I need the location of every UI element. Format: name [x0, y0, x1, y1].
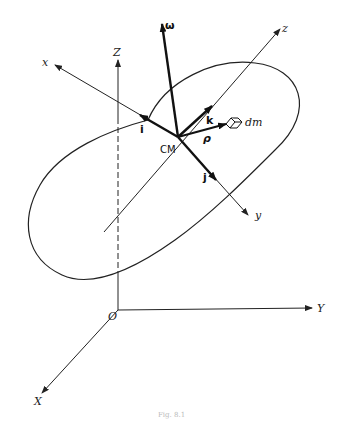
x-axis-label: x [42, 56, 49, 69]
rigid-body-diagram: Z Y X O x z y i j k ω ρ dm CM Fig. 8.1 [0, 0, 343, 421]
rigid-body-outline [28, 62, 299, 279]
z-axis-label: z [281, 22, 288, 35]
z-axis [104, 29, 280, 232]
Y-axis [118, 308, 312, 310]
unit-vectors: i j k [140, 106, 216, 184]
i-label: i [140, 123, 144, 136]
figure-caption: Fig. 8.1 [158, 411, 185, 419]
omega-vector [162, 24, 178, 137]
inertial-frame: Z Y X O [33, 46, 326, 408]
Y-axis-label: Y [317, 302, 326, 315]
dm-label: dm [245, 116, 262, 129]
origin-label: O [108, 310, 117, 323]
y-axis-label: y [254, 209, 262, 222]
k-label: k [206, 114, 214, 127]
omega-label: ω [165, 19, 175, 32]
i-vector [140, 115, 178, 137]
rho-label: ρ [203, 132, 211, 145]
mass-element-cube-icon [226, 118, 242, 128]
X-axis-label: X [33, 395, 43, 408]
j-label: j [202, 171, 207, 184]
X-axis [42, 310, 118, 393]
cm-label: CM [160, 144, 176, 155]
Z-axis-label: Z [112, 46, 121, 59]
